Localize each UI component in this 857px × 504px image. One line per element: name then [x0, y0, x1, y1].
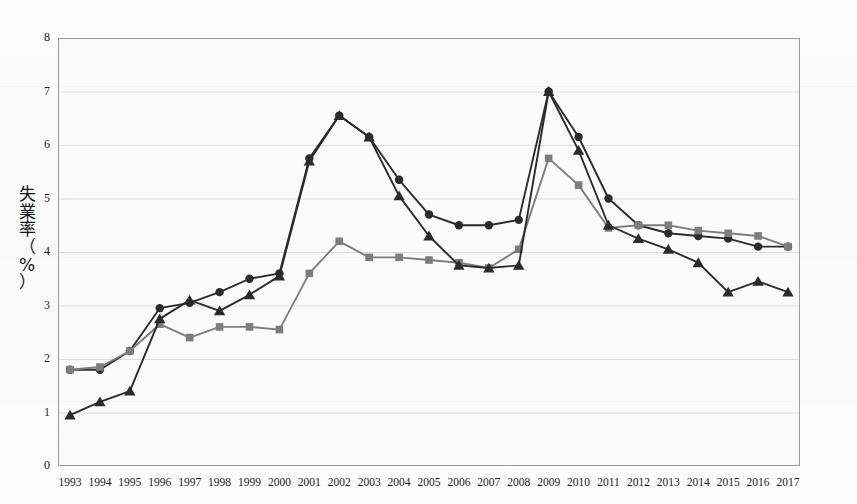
circle-marker: [245, 275, 253, 283]
square-marker: [784, 243, 792, 251]
square-marker: [66, 366, 74, 374]
x-tick-label: 2017: [766, 476, 810, 488]
square-marker: [246, 323, 254, 331]
square-marker: [694, 227, 702, 235]
scan-streak: [0, 257, 857, 258]
circle-marker: [455, 221, 463, 229]
scan-streak: [0, 86, 857, 87]
square-marker: [335, 238, 343, 246]
circle-marker: [395, 176, 403, 184]
square-marker: [306, 270, 314, 278]
circle-marker: [156, 304, 164, 312]
circle-marker: [604, 194, 612, 202]
square-marker: [126, 347, 134, 355]
square-marker: [665, 221, 673, 229]
square-marker: [186, 334, 194, 342]
y-tick-label: 0: [28, 458, 50, 473]
square-marker: [754, 232, 762, 240]
circle-marker: [664, 229, 672, 237]
square-marker: [96, 363, 104, 371]
y-tick-label: 2: [28, 351, 50, 366]
circle-marker: [215, 288, 223, 296]
circle-marker: [485, 221, 493, 229]
y-tick-label: 6: [28, 137, 50, 152]
circle-marker: [574, 133, 582, 141]
chart-figure: 失 業 率 （ % ） 012345678 199319941995199619…: [0, 0, 857, 504]
square-marker: [724, 229, 732, 237]
circle-marker: [515, 216, 523, 224]
square-marker: [276, 326, 284, 334]
y-tick-label: 1: [28, 405, 50, 420]
y-tick-label: 8: [28, 30, 50, 45]
y-axis-label-char-6: ）: [6, 274, 48, 292]
square-marker: [575, 181, 583, 189]
y-tick-label: 5: [28, 191, 50, 206]
y-tick-label: 3: [28, 298, 50, 313]
square-marker: [545, 155, 553, 163]
circle-marker: [754, 242, 762, 250]
square-marker: [635, 221, 643, 229]
square-marker: [216, 323, 224, 331]
circle-marker: [425, 210, 433, 218]
scan-streak: [0, 401, 857, 402]
